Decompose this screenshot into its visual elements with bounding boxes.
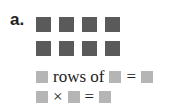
total-answer-box[interactable]: [141, 71, 153, 83]
equals-sign: =: [126, 67, 136, 87]
factor1-answer-box[interactable]: [36, 91, 48, 103]
array-square: [105, 17, 120, 32]
product-answer-box[interactable]: [99, 91, 111, 103]
rows-of-text: rows of: [53, 67, 104, 87]
times-sign: ×: [53, 87, 63, 107]
problem-label: a.: [10, 10, 24, 30]
array-square: [82, 41, 97, 56]
array-square: [59, 41, 74, 56]
multiplication-sentence: × =: [36, 89, 111, 105]
array-square: [59, 17, 74, 32]
rows-answer-box[interactable]: [36, 71, 48, 83]
factor2-answer-box[interactable]: [68, 91, 80, 103]
rows-of-sentence: rows of =: [36, 69, 153, 85]
equals-sign: =: [85, 87, 95, 107]
array-square: [105, 41, 120, 56]
columns-answer-box[interactable]: [109, 71, 121, 83]
array-square: [82, 17, 97, 32]
array-square: [36, 41, 51, 56]
array-square: [36, 17, 51, 32]
